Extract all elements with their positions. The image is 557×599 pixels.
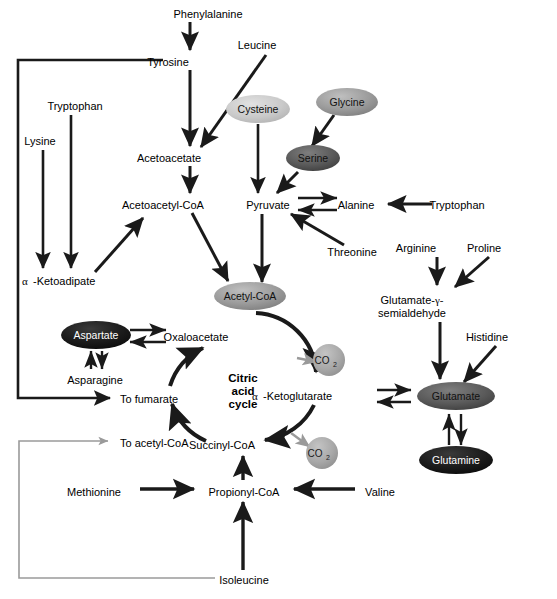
- cycle-label-line2: acid: [231, 385, 254, 397]
- label-glutamate: Glutamate: [432, 390, 481, 402]
- edge-succinylcoa-co2-bottom: [291, 433, 310, 447]
- label-to-acetyl-coa: To acetyl-CoA: [120, 437, 189, 449]
- label-serine: Serine: [298, 152, 329, 164]
- label-glutamine: Glutamine: [432, 454, 480, 466]
- label-methionine: Methionine: [67, 486, 121, 498]
- label-co2-bottom-text: CO: [308, 448, 323, 459]
- edge-glutamate-glutamine: [449, 414, 461, 445]
- label-co2-top-sub: 2: [333, 361, 337, 368]
- cycle-center-label: Citric acid cycle: [228, 372, 258, 410]
- label-glutamate-semialdehyde: Glutamate-γ- semialdehyde: [378, 294, 446, 319]
- label-lysine: Lysine: [24, 135, 55, 147]
- label-cysteine: Cysteine: [238, 103, 279, 115]
- edge-serine-pyruvate: [277, 172, 298, 193]
- label-acetyl-coa: Acetyl-CoA: [224, 290, 277, 302]
- label-valine: Valine: [365, 486, 395, 498]
- label-co2-bottom-sub: 2: [326, 454, 330, 461]
- label-histidine: Histidine: [466, 331, 508, 343]
- label-propionyl-coa: Propionyl-CoA: [209, 486, 281, 498]
- label-to-fumarate: To fumarate: [120, 393, 178, 405]
- edge-aspartate-asparagine: [91, 351, 102, 369]
- label-alanine: Alanine: [338, 199, 375, 211]
- pathway-diagram: Phenylalanine Tyrosine Leucine Tryptopha…: [0, 0, 557, 599]
- label-arginine: Arginine: [396, 242, 436, 254]
- label-pyruvate: Pyruvate: [246, 199, 289, 211]
- label-semialdehyde-line2: semialdehyde: [378, 307, 446, 319]
- label-ketoadipate: α -Ketoadipate: [22, 275, 95, 287]
- edge-isoleucine-to-acetylcoa: [19, 441, 215, 578]
- label-tryptophan-left: Tryptophan: [47, 100, 102, 112]
- edge-acetoacetylcoa-acetylcoa: [192, 213, 228, 281]
- pathway-canvas: Phenylalanine Tyrosine Leucine Tryptopha…: [0, 0, 557, 599]
- edge-ketoadipate-acetoacetylcoa: [95, 218, 143, 272]
- label-leucine: Leucine: [238, 39, 277, 51]
- label-co2-top-text: CO: [315, 355, 330, 366]
- label-tryptophan-right: Tryptophan: [429, 199, 484, 211]
- label-ketoglutarate-text: -Ketoglutarate: [263, 390, 332, 402]
- label-proline: Proline: [467, 242, 501, 254]
- label-glycine: Glycine: [329, 96, 364, 108]
- edge-pyruvate-alanine: [298, 198, 337, 210]
- label-succinyl-coa: Succinyl-CoA: [189, 439, 256, 451]
- label-aspartate: Aspartate: [74, 329, 119, 341]
- edge-ketoglutarate-glutamate: [377, 390, 411, 402]
- label-ketoglutarate: α -Ketoglutarate: [252, 390, 332, 402]
- cycle-label-line3: cycle: [229, 398, 258, 410]
- edge-proline-semialdehyde: [455, 257, 489, 287]
- cycle-label-line1: Citric: [228, 372, 258, 384]
- edge-threonine-pyruvate: [291, 214, 344, 245]
- edge-histidine-glutamate: [464, 346, 496, 382]
- label-isoleucine: Isoleucine: [219, 574, 269, 586]
- label-phenylalanine: Phenylalanine: [173, 8, 242, 20]
- edge-aspartate-oxaloacetate: [130, 330, 166, 342]
- label-tyrosine: Tyrosine: [147, 56, 189, 68]
- label-acetoacetate: Acetoacetate: [137, 152, 201, 164]
- label-oxaloacetate: Oxaloacetate: [164, 331, 229, 343]
- label-semialdehyde-line1: Glutamate-γ-: [381, 294, 444, 306]
- label-threonine: Threonine: [327, 246, 377, 258]
- label-asparagine: Asparagine: [67, 374, 123, 386]
- label-ketoadipate-text: -Ketoadipate: [33, 275, 95, 287]
- label-ketoadipate-prefix: α: [22, 275, 28, 287]
- label-acetoacetyl-coa: Acetoacetyl-CoA: [122, 199, 205, 211]
- edge-glycine-serine: [312, 115, 334, 146]
